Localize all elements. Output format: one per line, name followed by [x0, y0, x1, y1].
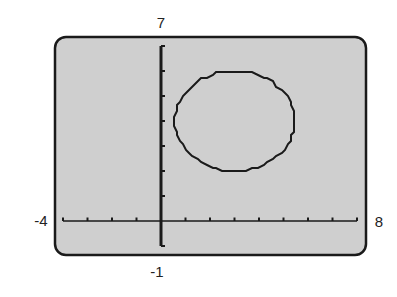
- xmin-label: -4: [34, 213, 47, 228]
- ymax-label: 7: [157, 15, 165, 30]
- screen-frame: [55, 37, 366, 255]
- calculator-screen: [0, 0, 397, 297]
- xmax-label: 8: [375, 214, 383, 229]
- ymin-label: -1: [150, 264, 163, 279]
